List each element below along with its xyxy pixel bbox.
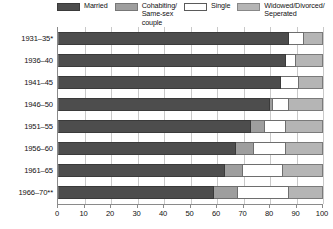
y-axis-label: 1951–55 — [0, 122, 53, 131]
x-axis-tick — [296, 204, 297, 208]
bar-segment[interactable] — [286, 54, 297, 67]
x-axis-tick — [110, 204, 111, 208]
bar-segment[interactable] — [299, 76, 323, 89]
x-axis-label: 30 — [127, 209, 147, 218]
bar-row[interactable] — [58, 142, 323, 155]
bar-segment[interactable] — [58, 32, 289, 45]
bar-segment[interactable] — [236, 142, 255, 155]
bar-segment[interactable] — [273, 98, 289, 111]
legend-label: Married — [84, 2, 108, 10]
legend-label: Single — [211, 2, 230, 10]
y-axis-label: 1956–60 — [0, 144, 53, 153]
bar-segment[interactable] — [286, 120, 323, 133]
x-axis-label: 40 — [153, 209, 173, 218]
legend-label: Widowed/Divorced/ Seperated — [264, 2, 324, 19]
y-axis-label: 1966–70** — [0, 188, 53, 197]
bar-segment[interactable] — [281, 76, 300, 89]
bar-segment[interactable] — [289, 32, 305, 45]
bar-segment[interactable] — [251, 120, 264, 133]
bar-segment[interactable] — [289, 186, 323, 199]
x-axis-tick — [137, 204, 138, 208]
x-axis-tick — [322, 204, 323, 208]
y-axis-label: 1931–35* — [0, 34, 53, 43]
x-axis-label: 80 — [259, 209, 279, 218]
legend-swatch-icon — [57, 3, 80, 11]
bar-segment[interactable] — [296, 54, 323, 67]
x-axis-tick — [57, 204, 58, 208]
legend-item[interactable]: Cohabiting/ Same-sex couple — [115, 2, 177, 27]
gridline — [323, 27, 324, 204]
legend-item[interactable]: Married — [57, 2, 108, 11]
legend-swatch-icon — [184, 3, 207, 11]
bar-segment[interactable] — [58, 76, 281, 89]
bar-row[interactable] — [58, 54, 323, 67]
x-axis-tick — [216, 204, 217, 208]
stacked-bar-chart: MarriedCohabiting/ Same-sex coupleSingle… — [0, 0, 333, 229]
bar-segment[interactable] — [243, 164, 283, 177]
bar-segment[interactable] — [58, 186, 214, 199]
bar-segment[interactable] — [58, 164, 225, 177]
bar-row[interactable] — [58, 98, 323, 111]
legend-item[interactable]: Widowed/Divorced/ Seperated — [237, 2, 324, 19]
x-axis-tick — [243, 204, 244, 208]
x-axis-label: 70 — [233, 209, 253, 218]
y-axis-label: 1941–45 — [0, 78, 53, 87]
bar-row[interactable] — [58, 32, 323, 45]
x-axis-label: 0 — [47, 209, 67, 218]
x-axis-label: 20 — [100, 209, 120, 218]
x-axis-label: 100 — [312, 209, 332, 218]
legend-item[interactable]: Single — [184, 2, 230, 11]
x-axis-tick — [190, 204, 191, 208]
x-axis-tick — [84, 204, 85, 208]
bar-segment[interactable] — [58, 54, 286, 67]
bar-segment[interactable] — [214, 186, 238, 199]
y-axis-label: 1946–50 — [0, 100, 53, 109]
bar-segment[interactable] — [225, 164, 244, 177]
bar-segment[interactable] — [58, 120, 251, 133]
bar-segment[interactable] — [283, 164, 323, 177]
bar-segment[interactable] — [58, 142, 236, 155]
legend-swatch-icon — [115, 3, 138, 11]
y-axis-category-labels: 1931–35*1936–401941–451946–501951–551956… — [0, 27, 53, 204]
bar-row[interactable] — [58, 76, 323, 89]
bar-segment[interactable] — [254, 142, 286, 155]
bar-row[interactable] — [58, 164, 323, 177]
x-axis-label: 10 — [74, 209, 94, 218]
bar-segment[interactable] — [289, 98, 323, 111]
bar-segment[interactable] — [265, 120, 286, 133]
bar-row[interactable] — [58, 186, 323, 199]
x-axis-tick — [269, 204, 270, 208]
legend-label: Cohabiting/ Same-sex couple — [142, 2, 177, 27]
plot-area — [57, 27, 323, 204]
legend-swatch-icon — [237, 3, 260, 11]
bar-segment[interactable] — [304, 32, 323, 45]
x-axis-tick — [163, 204, 164, 208]
y-axis-label: 1936–40 — [0, 56, 53, 65]
y-axis-label: 1961–65 — [0, 166, 53, 175]
bar-segment[interactable] — [286, 142, 323, 155]
chart-legend: MarriedCohabiting/ Same-sex coupleSingle… — [57, 2, 331, 26]
x-axis-label: 60 — [206, 209, 226, 218]
bar-segment[interactable] — [58, 98, 270, 111]
x-axis-label: 50 — [180, 209, 200, 218]
bar-rows — [58, 27, 323, 204]
x-axis-label: 90 — [286, 209, 306, 218]
bar-segment[interactable] — [238, 186, 288, 199]
bar-row[interactable] — [58, 120, 323, 133]
